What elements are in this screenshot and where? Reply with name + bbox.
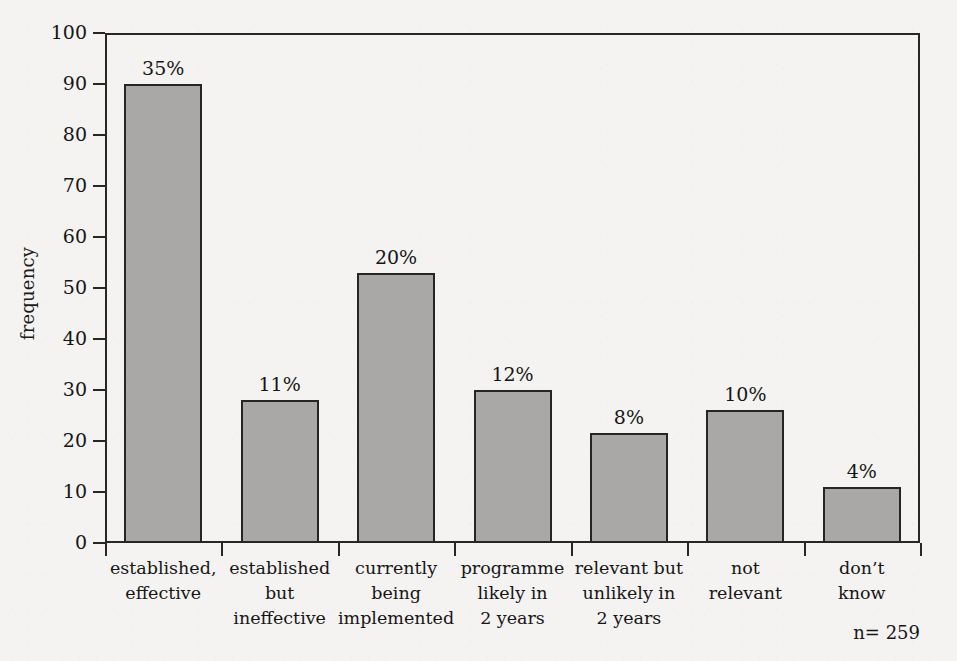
y-axis-tick-mark xyxy=(93,389,105,391)
x-axis-category-label-line: implemented xyxy=(338,606,454,631)
x-axis-category-label: relevant butunlikely in2 years xyxy=(571,556,687,631)
x-axis-category-label-line: ineffective xyxy=(221,606,337,631)
bar xyxy=(590,433,668,543)
y-axis-tick-mark xyxy=(93,287,105,289)
y-axis-tick-label: 0 xyxy=(75,530,87,554)
y-axis-tick-label: 90 xyxy=(63,71,87,95)
y-axis-tick-label: 40 xyxy=(63,326,87,350)
y-axis-tick-mark xyxy=(93,440,105,442)
x-axis-tick-mark xyxy=(571,543,573,556)
y-axis-title: frequency xyxy=(17,234,38,354)
bar-value-label: 4% xyxy=(807,460,917,482)
y-axis-tick-label: 50 xyxy=(63,275,87,299)
y-axis-tick-label: 70 xyxy=(63,173,87,197)
bar-value-label: 8% xyxy=(574,406,684,428)
x-axis-category-label-line: not xyxy=(687,556,803,581)
bar-value-label: 35% xyxy=(108,57,218,79)
x-axis-tick-mark xyxy=(920,543,922,556)
x-axis-category-label-line: currently xyxy=(338,556,454,581)
x-axis-category-label: established,effective xyxy=(105,556,221,606)
x-axis-category-label-line: 2 years xyxy=(571,606,687,631)
x-axis-category-label-line: effective xyxy=(105,581,221,606)
bar xyxy=(357,273,435,543)
x-axis-category-label: programmelikely in2 years xyxy=(454,556,570,631)
bar-value-label: 12% xyxy=(458,363,568,385)
bar-value-label: 20% xyxy=(341,246,451,268)
bar-value-label: 11% xyxy=(225,373,335,395)
x-axis-category-label-line: know xyxy=(804,581,920,606)
x-axis-category-label-line: don’t xyxy=(804,556,920,581)
x-axis-category-label-line: established xyxy=(221,556,337,581)
x-axis-category-label-line: 2 years xyxy=(454,606,570,631)
y-axis-tick-mark xyxy=(93,491,105,493)
x-axis-tick-mark xyxy=(338,543,340,556)
y-axis-tick-mark xyxy=(93,134,105,136)
x-axis-category-label-line: programme xyxy=(454,556,570,581)
x-axis-category-label-line: but xyxy=(221,581,337,606)
bar-value-label: 10% xyxy=(690,383,800,405)
y-axis-tick-label: 20 xyxy=(63,428,87,452)
y-axis-tick-label: 10 xyxy=(63,479,87,503)
bar xyxy=(474,390,552,543)
x-axis-tick-mark xyxy=(105,543,107,556)
y-axis-tick-label: 100 xyxy=(51,20,87,44)
x-axis-tick-mark xyxy=(454,543,456,556)
x-axis-category-label: notrelevant xyxy=(687,556,803,606)
x-axis-category-label-line: relevant xyxy=(687,581,803,606)
y-axis-tick-label: 30 xyxy=(63,377,87,401)
x-axis-tick-mark xyxy=(804,543,806,556)
x-axis-category-label-line: likely in xyxy=(454,581,570,606)
y-axis-tick-mark xyxy=(93,83,105,85)
y-axis-tick-mark xyxy=(93,32,105,34)
x-axis-tick-mark xyxy=(687,543,689,556)
sample-size-annotation: n= 259 xyxy=(853,622,920,643)
x-axis-category-label-line: unlikely in xyxy=(571,581,687,606)
y-axis-tick-label: 80 xyxy=(63,122,87,146)
bar xyxy=(706,410,784,543)
x-axis-category-label: establishedbutineffective xyxy=(221,556,337,631)
y-axis-tick-mark xyxy=(93,236,105,238)
x-axis-category-label-line: relevant but xyxy=(571,556,687,581)
x-axis-category-label-line: established, xyxy=(105,556,221,581)
x-axis-tick-mark xyxy=(221,543,223,556)
x-axis-category-label: don’tknow xyxy=(804,556,920,606)
x-axis-category-label-line: being xyxy=(338,581,454,606)
y-axis-tick-mark xyxy=(93,542,105,544)
y-axis-tick-mark xyxy=(93,185,105,187)
bar xyxy=(823,487,901,543)
bar xyxy=(124,84,202,543)
bar-chart: frequency 0102030405060708090100 35%11%2… xyxy=(0,0,957,661)
bar xyxy=(241,400,319,543)
y-axis-tick-mark xyxy=(93,338,105,340)
y-axis-tick-label: 60 xyxy=(63,224,87,248)
x-axis-category-label: currentlybeingimplemented xyxy=(338,556,454,631)
